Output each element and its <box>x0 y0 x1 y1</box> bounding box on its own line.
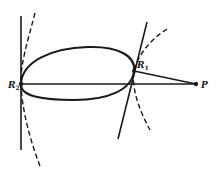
closed-oval-curve <box>21 47 134 100</box>
tangent-line-r1 <box>118 22 147 139</box>
segment-r1-p <box>134 71 196 84</box>
dashed-level-curve-r1 <box>133 29 167 130</box>
label-p: P <box>200 80 208 90</box>
diagram-canvas: R2 R1 P <box>0 0 216 173</box>
dashed-level-curve-r2 <box>21 13 40 166</box>
label-r2: R2 <box>7 80 20 91</box>
point-r1-marker <box>132 69 136 73</box>
point-p-marker <box>194 82 198 86</box>
label-r1: R1 <box>136 60 149 71</box>
